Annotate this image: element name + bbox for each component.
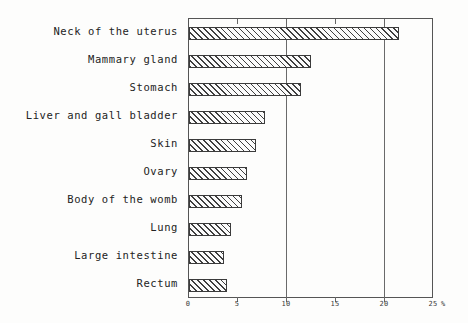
bar (189, 195, 242, 208)
x-tick-mark-top (384, 19, 385, 24)
category-label: Lung (0, 222, 178, 233)
x-tick-mark-top (335, 19, 336, 24)
x-axis: 0510152025% (188, 300, 448, 320)
category-label: Neck of the uterus (0, 26, 178, 37)
bar (189, 251, 224, 264)
bar (189, 27, 399, 40)
x-axis-unit-label: % (441, 300, 445, 308)
category-label: Stomach (0, 82, 178, 93)
plot-area (188, 18, 433, 298)
bar (189, 111, 265, 124)
category-label: Skin (0, 138, 178, 149)
category-label: Large intestine (0, 250, 178, 261)
bar (189, 223, 231, 236)
x-tick-label: 20 (379, 300, 388, 308)
gridline (384, 19, 385, 297)
category-label: Rectum (0, 278, 178, 289)
category-label: Liver and gall bladder (0, 110, 178, 121)
bar (189, 55, 311, 68)
category-label: Mammary gland (0, 54, 178, 65)
bar (189, 279, 227, 292)
category-label: Body of the womb (0, 194, 178, 205)
x-tick-label: 0 (186, 300, 191, 308)
bar (189, 167, 247, 180)
bar (189, 139, 256, 152)
horizontal-bar-chart: Neck of the uterusMammary glandStomachLi… (0, 0, 468, 323)
x-tick-mark-top (286, 19, 287, 24)
x-tick-label: 10 (281, 300, 290, 308)
x-tick-label: 5 (235, 300, 240, 308)
x-tick-label: 25 (428, 300, 437, 308)
x-tick-mark-top (237, 19, 238, 24)
category-label: Ovary (0, 166, 178, 177)
x-tick-label: 15 (330, 300, 339, 308)
category-axis-labels: Neck of the uterusMammary glandStomachLi… (0, 18, 183, 298)
bar (189, 83, 301, 96)
